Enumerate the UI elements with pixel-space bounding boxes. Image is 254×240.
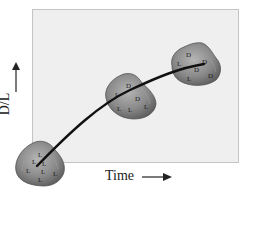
shell-middle: D L D L L L — [106, 73, 156, 119]
shell-letter: D — [194, 66, 199, 74]
right-arrow-icon — [142, 172, 172, 182]
y-axis-text: D/L — [0, 93, 13, 116]
shell-letter: L — [26, 167, 30, 175]
shell-letter: L — [117, 105, 121, 113]
shell-letter: L — [187, 75, 191, 83]
x-axis-text: Time — [105, 168, 134, 183]
shell-letter: L — [128, 106, 132, 114]
shell-letter: L — [32, 158, 36, 166]
shell-letter: L — [177, 60, 181, 68]
shell-letter: L — [41, 168, 45, 176]
y-axis-label: D/L — [6, 58, 26, 118]
shell-letter: D — [135, 95, 140, 103]
shell-letter: L — [144, 103, 148, 111]
shell-letter: D — [186, 51, 191, 59]
shell-old: D L D D L D — [172, 43, 221, 86]
x-axis-label: Time — [105, 168, 172, 184]
shell-letter: L — [53, 170, 57, 178]
shell-letter: L — [38, 176, 42, 184]
shell-letter: L — [38, 151, 42, 159]
up-arrow-icon — [10, 62, 22, 92]
shell-letter: D — [208, 72, 213, 80]
